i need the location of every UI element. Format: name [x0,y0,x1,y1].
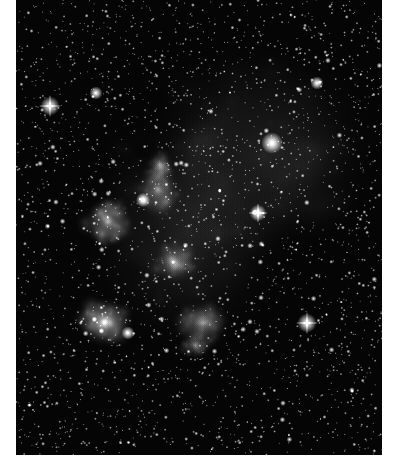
starfield-canvas [16,0,382,455]
nebula-photograph [16,0,382,455]
page [0,0,398,467]
